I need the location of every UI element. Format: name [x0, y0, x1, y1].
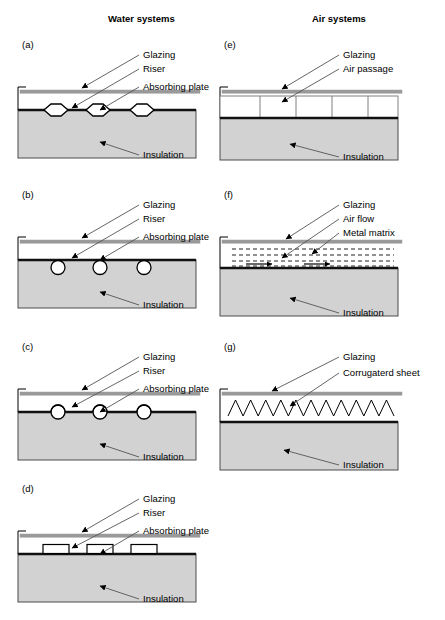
label-riser-b: Riser: [143, 213, 165, 224]
riser-tube-b-2: [137, 261, 151, 275]
panel-label-c: (c): [22, 341, 33, 352]
label-glazing-g: Glazing: [343, 351, 375, 362]
leader-glazing-f: [286, 205, 339, 239]
leader-glazing-b: [82, 205, 139, 238]
panel-label-f: (f): [224, 189, 233, 200]
label-insulation-c: Insulation: [143, 451, 184, 462]
label-absorbing-plate-d: Absorbing plate: [143, 525, 209, 536]
panel-c: GlazingRiserAbsorbing plateInsulation: [18, 351, 209, 462]
leader-glazing-c: [82, 357, 139, 390]
label-insulation-a: Insulation: [143, 149, 184, 160]
leader-air-flow-f: [282, 219, 339, 258]
figure-canvas: Water systemsAir systemsGlazingRiserAbso…: [0, 0, 445, 620]
panel-label-b: (b): [22, 189, 34, 200]
air-channel-box-e: [220, 96, 398, 118]
panel-label-d: (d): [22, 483, 34, 494]
corrugated-sheet-g: [228, 400, 394, 416]
riser-tube-b-1: [93, 261, 107, 275]
riser-tube-d-0: [43, 545, 69, 554]
label-air-passage-e: Air passage: [343, 63, 393, 74]
label-insulation-f: Insulation: [343, 307, 384, 318]
glazing-sheet-f: [222, 240, 402, 243]
label-absorbing-plate-c: Absorbing plate: [143, 383, 209, 394]
panel-f: GlazingAir flowMetal matrixInsulation: [220, 199, 402, 318]
leader-glazing-e: [282, 55, 339, 89]
glazing-sheet-g: [222, 392, 402, 395]
panel-label-a: (a): [22, 39, 34, 50]
panel-a: GlazingRiserAbsorbing plateInsulation: [18, 49, 209, 160]
label-absorbing-plate-a: Absorbing plate: [143, 81, 209, 92]
label-insulation-d: Insulation: [143, 593, 184, 604]
label-air-flow-f: Air flow: [343, 213, 374, 224]
glazing-sheet-e: [222, 90, 402, 93]
leader-glazing-a: [82, 55, 139, 88]
panel-label-g: (g): [224, 341, 236, 352]
panel-e: GlazingAir passageInsulation: [220, 49, 402, 162]
label-glazing-f: Glazing: [343, 199, 375, 210]
label-absorbing-plate-b: Absorbing plate: [143, 231, 209, 242]
riser-tube-d-2: [131, 545, 157, 554]
label-insulation-g: Insulation: [343, 459, 384, 470]
riser-tube-b-0: [51, 261, 65, 275]
label-glazing-c: Glazing: [143, 351, 175, 362]
leader-glazing-g: [272, 357, 339, 391]
label-corrugaterd-sheet-g: Corrugaterd sheet: [343, 367, 420, 378]
panel-label-e: (e): [224, 39, 236, 50]
panel-d: GlazingRiserAbsorbing plateInsulation: [18, 493, 209, 604]
panel-g: GlazingCorrugaterd sheetInsulation: [220, 351, 420, 470]
label-riser-a: Riser: [143, 63, 165, 74]
label-glazing-a: Glazing: [143, 49, 175, 60]
label-glazing-e: Glazing: [343, 49, 375, 60]
label-glazing-d: Glazing: [143, 493, 175, 504]
leader-glazing-d: [82, 499, 139, 532]
label-riser-c: Riser: [143, 365, 165, 376]
column-title-air: Air systems: [312, 13, 366, 24]
solar-collector-figure: Water systemsAir systemsGlazingRiserAbso…: [0, 0, 445, 620]
leader-metal-matrix-f: [312, 233, 339, 254]
panel-b: GlazingRiserAbsorbing plateInsulation: [18, 199, 209, 310]
label-insulation-e: Insulation: [343, 151, 384, 162]
label-glazing-b: Glazing: [143, 199, 175, 210]
label-metal-matrix-f: Metal matrix: [343, 227, 395, 238]
label-insulation-b: Insulation: [143, 299, 184, 310]
label-riser-d: Riser: [143, 507, 165, 518]
column-title-water: Water systems: [108, 13, 175, 24]
